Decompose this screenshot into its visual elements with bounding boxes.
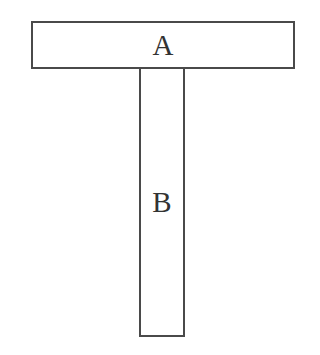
block-b: B: [139, 67, 185, 337]
block-b-label: B: [152, 188, 171, 217]
block-a: A: [31, 21, 295, 69]
block-a-label: A: [153, 31, 174, 60]
